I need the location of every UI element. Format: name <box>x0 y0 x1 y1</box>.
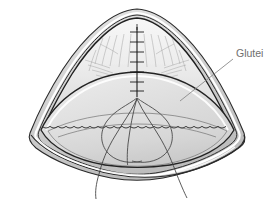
label-glutei: Glutei <box>236 47 263 59</box>
illustration-canvas: Glutei <box>0 0 278 211</box>
surgical-illustration-figure: Glutei <box>0 0 278 211</box>
